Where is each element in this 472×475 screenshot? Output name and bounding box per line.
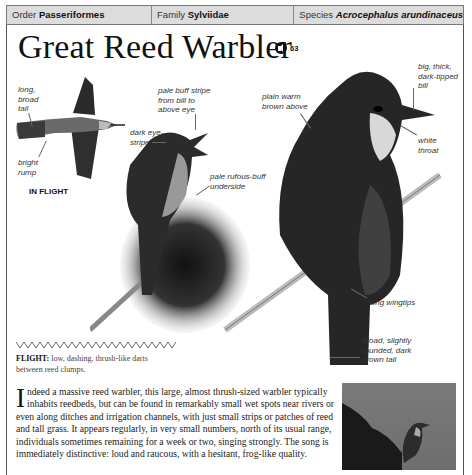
label-long-wingtips: long wingtips <box>369 298 415 308</box>
leader-line <box>195 114 196 130</box>
flight-pattern-zigzag-icon <box>16 340 176 350</box>
label-big-thick-bill: big, thick,dark-tippedbill <box>418 62 458 91</box>
label-broad-rounded-tail: broad, slightlyrounded, darkbrown tail <box>362 336 411 365</box>
species-value: Acrocephalus arundinaceus <box>336 9 463 20</box>
label-long-broad-tail: long,broadtail <box>18 85 38 114</box>
order-value: Passeriformes <box>39 9 104 20</box>
perched-bird-illustration <box>220 65 460 365</box>
label-plain-warm-brown-above: plain warmbrown above <box>262 92 308 111</box>
taxonomy-family: Family Sylviidae <box>152 6 294 24</box>
flight-description: FLIGHT: low, dashing, thrush-like darts … <box>16 353 176 375</box>
speaker-icon[interactable] <box>275 42 287 54</box>
label-bright-rump: brightrump <box>18 158 38 177</box>
label-pale-buff-stripe: pale buff stripefrom bill toabove eye <box>158 86 210 115</box>
flight-heading: FLIGHT: <box>16 354 49 363</box>
leader-line <box>330 357 360 358</box>
drop-cap: I <box>16 387 25 409</box>
taxonomy-bar: Order Passeriformes Family Sylviidae Spe… <box>6 5 464 25</box>
description-text: ndeed a massive reed warbler, this large… <box>16 386 334 459</box>
page-title: Great Reed Warbler <box>18 28 292 66</box>
order-label: Order <box>12 9 36 20</box>
taxonomy-species: Species Acrocephalus arundinaceus <box>294 6 463 24</box>
audio-reference[interactable]: 63 <box>275 42 298 54</box>
label-dark-eye-stripe: dark eye-stripe <box>130 128 163 147</box>
photo-bird-in-reeds <box>342 383 456 470</box>
leader-line <box>152 142 166 143</box>
species-label: Species <box>299 9 333 20</box>
species-description: Indeed a massive reed warbler, this larg… <box>16 386 336 460</box>
leader-line <box>413 88 414 110</box>
flight-caption: IN FLIGHT <box>29 187 68 196</box>
habitat-photo <box>342 383 456 470</box>
label-white-throat: whitethroat <box>418 136 438 155</box>
family-label: Family <box>157 9 185 20</box>
audio-track-number: 63 <box>290 44 298 53</box>
family-value: Sylviidae <box>188 9 229 20</box>
taxonomy-order: Order Passeriformes <box>7 6 152 24</box>
